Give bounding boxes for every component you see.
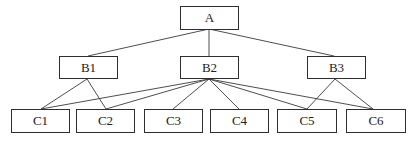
edge-b2-c2 bbox=[106, 79, 209, 109]
node-c5-label: C5 bbox=[299, 113, 314, 129]
edge-b2-c1 bbox=[41, 79, 209, 109]
node-b2: B2 bbox=[180, 56, 239, 79]
node-b1-label: B1 bbox=[81, 60, 96, 76]
node-c6-label: C6 bbox=[368, 113, 383, 129]
node-c3: C3 bbox=[144, 109, 203, 133]
node-c3-label: C3 bbox=[166, 113, 181, 129]
node-c1: C1 bbox=[11, 109, 70, 133]
node-c4-label: C4 bbox=[232, 113, 247, 129]
node-c4: C4 bbox=[210, 109, 269, 133]
node-a-label: A bbox=[205, 10, 214, 26]
node-b2-label: B2 bbox=[202, 60, 217, 76]
edge-b1-c2 bbox=[87, 79, 106, 109]
node-b3: B3 bbox=[307, 56, 366, 79]
edge-b3-c5 bbox=[307, 79, 335, 109]
node-b3-label: B3 bbox=[329, 60, 344, 76]
node-c6: C6 bbox=[346, 109, 406, 133]
node-c5: C5 bbox=[277, 109, 337, 133]
node-c2-label: C2 bbox=[98, 113, 113, 129]
edge-a-b3 bbox=[209, 29, 334, 56]
edge-a-b1 bbox=[88, 29, 209, 56]
node-a: A bbox=[180, 6, 239, 30]
node-b1: B1 bbox=[59, 56, 118, 79]
edge-b3-c6 bbox=[335, 79, 373, 109]
edge-b2-c3 bbox=[173, 79, 209, 109]
node-c1-label: C1 bbox=[33, 113, 48, 129]
node-c2: C2 bbox=[76, 109, 135, 133]
